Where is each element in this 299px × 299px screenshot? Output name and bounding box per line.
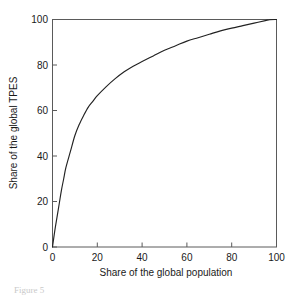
x-tick-label-40: 40 bbox=[137, 252, 149, 263]
y-axis-title: Share of the global TPES bbox=[8, 76, 19, 189]
figure-container: 100 80 60 40 20 0 0 20 40 60 80 100 Shar… bbox=[0, 0, 299, 299]
y-tick-label-80: 80 bbox=[37, 60, 49, 71]
y-tick-label-20: 20 bbox=[37, 196, 49, 207]
x-tick-label-100: 100 bbox=[268, 252, 285, 263]
y-tick-label-0: 0 bbox=[42, 242, 48, 253]
x-tick-label-60: 60 bbox=[181, 252, 193, 263]
x-tick-label-80: 80 bbox=[226, 252, 238, 263]
y-tick-label-100: 100 bbox=[31, 14, 48, 25]
x-tick-label-0: 0 bbox=[50, 252, 56, 263]
y-tick-label-40: 40 bbox=[37, 151, 49, 162]
chart-background bbox=[0, 0, 299, 299]
x-axis-title: Share of the global population bbox=[100, 267, 233, 278]
lorenz-curve-chart: 100 80 60 40 20 0 0 20 40 60 80 100 Shar… bbox=[0, 0, 299, 299]
y-tick-label-60: 60 bbox=[37, 105, 49, 116]
x-tick-label-20: 20 bbox=[92, 252, 104, 263]
figure-caption: Figure 5 bbox=[14, 285, 45, 295]
